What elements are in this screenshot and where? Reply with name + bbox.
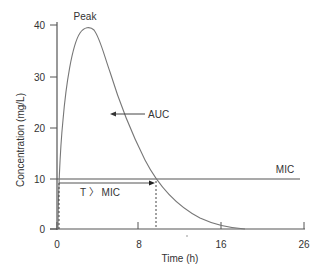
y-tick-label: 30: [34, 72, 46, 83]
stray-dot: [186, 235, 188, 237]
y-tick-label: 40: [34, 20, 46, 31]
x-tick-label: 8: [136, 239, 142, 250]
y-tick-label: 0: [39, 224, 45, 235]
x-tick-label: 26: [298, 239, 310, 250]
x-tick-labels: 0 8 16 26: [54, 239, 310, 250]
mic-label: MIC: [276, 164, 294, 175]
t-mic-arrowhead-icon: [149, 181, 155, 186]
x-tick-label: 0: [54, 239, 60, 250]
t-mic-label: T 〉 MIC: [80, 187, 120, 198]
peak-label: Peak: [74, 11, 98, 22]
y-tick-label: 20: [34, 123, 46, 134]
y-ticks: [50, 25, 57, 229]
y-axis-label: Concentration (mg/L): [15, 93, 26, 187]
x-axis-label: Time (h): [162, 253, 199, 264]
auc-arrowhead-icon: [110, 112, 116, 117]
x-ticks: [57, 222, 304, 229]
y-tick-label: 10: [34, 174, 46, 185]
concentration-curve: [58, 28, 245, 229]
x-tick-label: 16: [215, 239, 227, 250]
auc-label: AUC: [148, 109, 169, 120]
pk-chart: 0 10 20 30 40 0 8 16 26 Time (h) Concent…: [0, 0, 325, 275]
y-tick-labels: 0 10 20 30 40: [34, 20, 46, 235]
